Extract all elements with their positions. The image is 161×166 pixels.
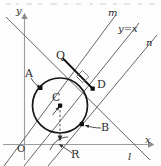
x-axis-label: x	[145, 135, 151, 145]
point-label-D: D	[97, 79, 106, 90]
leader-C	[53, 107, 60, 115]
line-label-l: l	[128, 152, 131, 162]
line-l	[6, 17, 150, 160]
point-D	[91, 87, 95, 91]
point-C	[58, 104, 62, 108]
right-angle-mark-icon	[77, 71, 89, 83]
point-label-Q: Q	[56, 50, 65, 61]
line-l-group	[6, 17, 150, 160]
line-label-y-equals-x: y=x	[118, 24, 138, 34]
origin-label: O	[17, 144, 25, 154]
point-A	[38, 86, 42, 90]
leader-B	[86, 126, 102, 129]
y-axis-label: y	[16, 6, 22, 16]
line-label-m: m	[108, 8, 117, 18]
point-B	[80, 122, 84, 126]
point-label-A: A	[25, 68, 33, 79]
line-label-n: n	[146, 38, 152, 48]
geometry-figure: y x O m y=x n l A B C D Q R	[0, 0, 161, 166]
point-label-C: C	[52, 92, 60, 103]
scan-noise-strip	[0, 1, 161, 8]
point-label-B: B	[101, 122, 109, 133]
point-label-R: R	[71, 149, 79, 160]
